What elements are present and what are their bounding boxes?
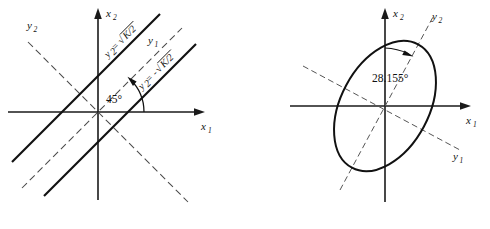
lower-line-equation-label: y 2 = - √ K/2 (135, 49, 180, 94)
x1-axis-label-letter-right: x (465, 114, 471, 126)
y1-dashed-axis-label-subscript-right: 1 (460, 156, 464, 165)
lower-solid-line (44, 44, 196, 196)
angle-label-45: 45° (106, 93, 123, 105)
y2-dashed-axis-label-right: y 2 (431, 10, 443, 25)
x2-axis-group (94, 8, 102, 200)
y2-dashed-axis-label-letter: y (26, 19, 32, 31)
x1-axis-group (8, 108, 205, 116)
left-panel-svg: x 1 x 2 y 2 y 1 y 2 = √ (0, 0, 245, 229)
x2-axis-arrowhead (94, 8, 102, 19)
x1-axis-label: x 1 (200, 120, 212, 135)
y2-dashed-axis-label: y 2 (26, 19, 38, 34)
x2-axis-label-letter: x (105, 7, 111, 19)
angle-label-28155: 28.155° (372, 72, 409, 84)
x1-axis-label-right: x 1 (465, 114, 477, 129)
x1-axis-label-letter: x (200, 120, 206, 132)
y2-dashed-axis-label-subscript-right: 2 (439, 16, 443, 25)
y1-dashed-axis-label-right: y 1 (452, 150, 463, 165)
x1-axis-label-subscript: 1 (208, 126, 212, 135)
y2-dashed-axis-label-letter-right: y (431, 10, 437, 22)
y1-dashed-axis-label-subscript: 1 (155, 40, 159, 49)
right-panel-svg: x 1 x 2 y 2 y 1 28.155° (245, 0, 490, 229)
right-panel: x 1 x 2 y 2 y 1 28.155° (245, 0, 490, 229)
x1-axis-arrowhead-right (460, 102, 471, 110)
y2-dashed-axis-label-subscript: 2 (34, 25, 38, 34)
x1-axis-arrowhead (194, 108, 205, 116)
x2-axis-label-subscript: 2 (113, 13, 117, 22)
x2-axis-group-right (381, 8, 389, 202)
x1-axis-group-right (290, 102, 471, 110)
y1-dashed-axis-label-letter-right: y (452, 150, 458, 162)
y1-dashed-axis-label: y 1 (147, 34, 158, 49)
x2-axis-label: x 2 (105, 7, 117, 22)
figure-root: x 1 x 2 y 2 y 1 y 2 = √ (0, 0, 490, 229)
angle-arc-28-group (385, 48, 414, 57)
x2-axis-label-letter-right: x (392, 7, 398, 19)
upper-line-equation-label: y 2 = √ K/2 (101, 21, 142, 62)
y2-dashed-axis-right (340, 17, 433, 190)
x2-axis-arrowhead-right (381, 8, 389, 19)
x1-axis-label-subscript-right: 1 (473, 120, 477, 129)
y1-dashed-axis-label-letter: y (147, 34, 153, 46)
x2-axis-label-right: x 2 (392, 7, 404, 22)
left-panel: x 1 x 2 y 2 y 1 y 2 = √ (0, 0, 245, 229)
x2-axis-label-subscript-right: 2 (400, 13, 404, 22)
